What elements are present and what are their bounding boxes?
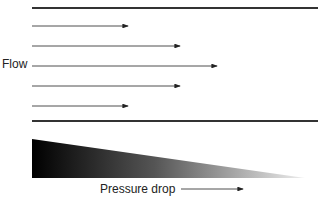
flow-label: Flow (2, 57, 27, 71)
velocity-arrows (32, 26, 217, 106)
flow-diagram (0, 0, 324, 207)
pressure-wedge (32, 139, 305, 178)
pressure-drop-label: Pressure drop (100, 182, 175, 196)
